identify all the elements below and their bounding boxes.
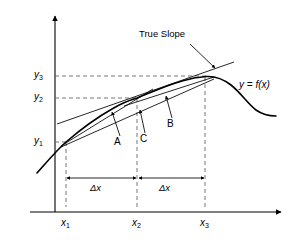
x3-axis-label: x3 <box>200 218 209 228</box>
true-slope-leader-arrow <box>190 44 215 68</box>
slope-diagram: y3 y2 y1 x1 x2 x3 True Slope y = f(x) A … <box>0 0 288 240</box>
true-slope-annotation: True Slope <box>139 29 185 39</box>
secant-label-c: C <box>140 134 147 144</box>
guide-lines-group <box>55 76 207 207</box>
secant-line-c <box>61 79 214 147</box>
function-curve <box>37 76 276 173</box>
secant-line-b <box>124 77 214 106</box>
function-label: y = f(x) <box>239 80 270 90</box>
delta-x-right-label: Δx <box>159 183 170 193</box>
delta-x-left-label: Δx <box>90 183 101 193</box>
x2-axis-label: x2 <box>132 218 141 228</box>
x1-axis-label: x1 <box>61 218 70 228</box>
callout-arrows-group <box>112 44 215 136</box>
y3-axis-label: y3 <box>34 70 43 80</box>
tangent-line-true-slope <box>57 62 234 124</box>
secant-label-b: B <box>167 119 174 129</box>
axis-group <box>30 16 281 212</box>
y1-axis-label: y1 <box>34 136 43 146</box>
y2-axis-label: y2 <box>34 92 43 102</box>
secant-label-a: A <box>114 137 121 147</box>
callout-arrow-c <box>140 110 145 133</box>
